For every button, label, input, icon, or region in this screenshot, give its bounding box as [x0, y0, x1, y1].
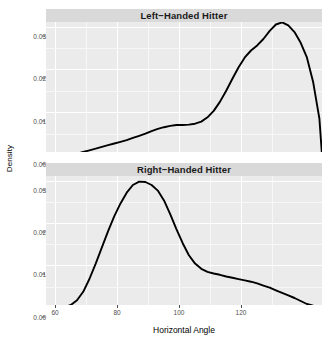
y-tick-label: 0.02: [12, 75, 46, 82]
plot-area-left-handed: [46, 22, 322, 152]
facet-panel-right-handed: Right−Handed Hitter: [46, 163, 322, 305]
y-tick-label: 0.03: [12, 187, 46, 194]
y-tick-mark: [42, 121, 45, 122]
y-tick-label: 0.01: [12, 271, 46, 278]
y-tick-label: 0.01: [12, 118, 46, 125]
x-tick-mark: [55, 305, 56, 308]
y-tick-label: 0.02: [12, 229, 46, 236]
y-tick-label: 0.00: [12, 314, 46, 321]
y-tick-mark: [42, 190, 45, 191]
x-axis: 60 80 100 120: [46, 305, 322, 319]
x-tick-mark: [241, 305, 242, 308]
facet-strip-left-handed: Left−Handed Hitter: [46, 9, 322, 22]
x-tick-mark: [179, 305, 180, 308]
x-tick-label: 80: [105, 309, 129, 316]
y-tick-mark: [42, 78, 45, 79]
y-tick-label: 0.03: [12, 33, 46, 40]
y-tick-mark: [42, 274, 45, 275]
density-plot-figure: Density Left−Handed Hitter: [0, 0, 331, 348]
x-tick-label: 100: [167, 309, 191, 316]
x-tick-mark: [117, 305, 118, 308]
facet-strip-right-handed: Right−Handed Hitter: [46, 163, 322, 176]
y-tick-mark: [42, 232, 45, 233]
y-tick-mark: [42, 317, 45, 318]
facet-strip-label: Left−Handed Hitter: [140, 10, 227, 21]
x-tick-label: 120: [229, 309, 253, 316]
y-axis-left-handed: 0.00 0.01 0.02 0.03: [0, 9, 46, 152]
facet-strip-label: Right−Handed Hitter: [137, 164, 231, 175]
x-tick-label: 60: [43, 309, 67, 316]
y-axis-right-handed: 0.00 0.01 0.02 0.03: [0, 163, 46, 305]
plot-area-right-handed: [46, 176, 322, 305]
facet-panel-left-handed: Left−Handed Hitter: [46, 9, 322, 152]
y-tick-mark: [42, 36, 45, 37]
density-curve-left-handed: [46, 22, 322, 152]
x-axis-title: Horizontal Angle: [46, 325, 322, 335]
density-curve-right-handed: [46, 176, 322, 305]
